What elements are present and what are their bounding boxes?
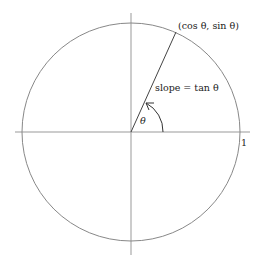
slope-label: slope = tan θ	[155, 82, 219, 93]
angle-label: θ	[140, 115, 146, 126]
one-label: 1	[241, 137, 247, 148]
unit-circle-diagram: (cos θ, sin θ) slope = tan θ θ 1	[0, 0, 259, 262]
angle-arc	[146, 103, 163, 132]
point-label: (cos θ, sin θ)	[178, 20, 239, 31]
